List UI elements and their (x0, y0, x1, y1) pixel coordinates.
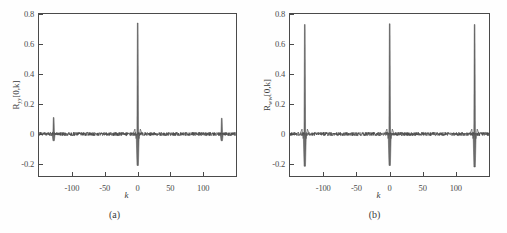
x-tick-mark (170, 172, 171, 176)
correlation-peak (217, 118, 226, 141)
x-tick-mark (356, 172, 357, 176)
y-tick-mark (290, 14, 294, 15)
y-axis-title-main: R (11, 104, 21, 110)
x-tick-mark (323, 172, 324, 176)
x-tick-mark (105, 172, 106, 176)
y-tick-mark (39, 164, 43, 165)
x-axis-title-b: k (252, 190, 505, 200)
correlation-peak (470, 25, 479, 168)
correlation-peak (49, 118, 58, 141)
correlation-peak (385, 24, 394, 166)
x-tick-mark (138, 172, 139, 176)
y-tick-mark (39, 104, 43, 105)
y-tick-mark (290, 44, 294, 45)
x-tick-mark (390, 172, 391, 176)
y-axis-title-a: Ryy[0,k] (11, 13, 23, 177)
x-tick-mark (72, 172, 73, 176)
correlation-peak (133, 23, 142, 166)
correlation-peak (300, 25, 309, 167)
x-tick-mark (456, 172, 457, 176)
y-tick-mark (39, 134, 43, 135)
chart-panel-a: 0.8 0.6 0.4 0.2 0 -0.2 Ryy[0,k] -100-500… (0, 0, 253, 233)
y-tick-mark (39, 14, 43, 15)
data-trace-a (39, 14, 236, 176)
x-tick-mark (423, 172, 424, 176)
y-axis-title-tail: [0,k] (262, 79, 272, 96)
plot-area-b (289, 13, 490, 177)
panel-caption-b: (b) (248, 209, 501, 220)
y-axis-title-b: Rww[0,k] (262, 13, 274, 177)
x-tick-mark (203, 172, 204, 176)
y-tick-mark (290, 164, 294, 165)
panel-caption-a: (a) (0, 209, 241, 220)
data-trace-b (290, 14, 489, 176)
y-axis-title-main: R (262, 105, 272, 111)
chart-panel-b: 0.8 0.6 0.4 0.2 0 -0.2 Rww[0,k] -100-500… (254, 0, 507, 233)
y-tick-mark (290, 134, 294, 135)
y-tick-mark (39, 44, 43, 45)
figure-container: 0.8 0.6 0.4 0.2 0 -0.2 Ryy[0,k] -100-500… (0, 0, 507, 233)
y-axis-title-subscript: yy (15, 98, 22, 104)
y-axis-title-subscript: ww (266, 96, 273, 105)
y-tick-mark (290, 74, 294, 75)
plot-area-a (38, 13, 237, 177)
y-tick-mark (290, 104, 294, 105)
y-tick-mark (39, 74, 43, 75)
x-axis-title-a: k (0, 190, 253, 200)
y-axis-title-tail: [0,k] (11, 80, 21, 97)
